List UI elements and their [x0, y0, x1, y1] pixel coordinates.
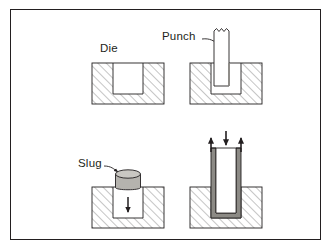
- slug-cylinder-top: [116, 170, 141, 178]
- panel-punch-entering-die: Punch: [162, 29, 262, 105]
- panel-slug-ejected: Slug: [78, 157, 164, 228]
- punch-label: Punch: [162, 30, 196, 42]
- panel-die-only: Die: [92, 42, 164, 104]
- die-cavity-outline: [113, 63, 143, 94]
- panel-drawn-cup: [190, 131, 262, 228]
- die-label: Die: [100, 42, 118, 54]
- punch-body: [214, 29, 229, 87]
- figure-diagram: Die Punch Slug: [0, 0, 332, 251]
- figure-root: Die Punch Slug: [0, 0, 332, 251]
- drawn-cup-interior: [216, 148, 236, 213]
- slug-label: Slug: [78, 157, 102, 169]
- die-block-hatch: [92, 63, 164, 104]
- slug-leader-line: [104, 166, 118, 172]
